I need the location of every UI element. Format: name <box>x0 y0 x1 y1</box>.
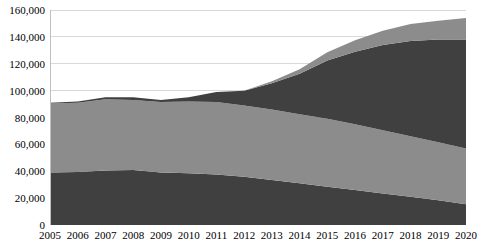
x-tick-label: 2006 <box>67 229 89 242</box>
x-tick-label: 2010 <box>178 229 200 242</box>
y-tick-label: 80,000 <box>15 112 45 123</box>
x-tick-label: 2009 <box>150 229 172 242</box>
x-tick-label: 2005 <box>39 229 61 242</box>
x-tick-label: 2014 <box>289 229 311 242</box>
x-tick-label: 2016 <box>344 229 366 242</box>
y-axis: 020,00040,00060,00080,000100,000120,0001… <box>0 0 48 247</box>
y-tick-label: 140,000 <box>9 31 45 42</box>
plot-svg <box>50 10 466 225</box>
stacked-area-chart: 020,00040,00060,00080,000100,000120,0001… <box>0 0 479 247</box>
y-tick-label: 40,000 <box>15 166 45 177</box>
x-tick-label: 2017 <box>372 229 394 242</box>
y-tick-label: 20,000 <box>15 193 45 204</box>
x-tick-label: 2008 <box>122 229 144 242</box>
x-tick-label: 2013 <box>261 229 283 242</box>
x-tick-label: 2012 <box>233 229 255 242</box>
y-tick-label: 160,000 <box>9 5 45 16</box>
plot-area <box>50 10 466 225</box>
y-tick-label: 60,000 <box>15 139 45 150</box>
x-tick-label: 2018 <box>400 229 422 242</box>
x-axis: 2005200620072008200920102011201220132014… <box>50 229 466 247</box>
y-tick-label: 120,000 <box>9 58 45 69</box>
x-tick-label: 2015 <box>316 229 338 242</box>
x-tick-label: 2011 <box>206 229 228 242</box>
x-tick-label: 2007 <box>94 229 116 242</box>
x-tick-label: 2019 <box>427 229 449 242</box>
x-tick-label: 2020 <box>455 229 477 242</box>
y-tick-label: 100,000 <box>9 85 45 96</box>
